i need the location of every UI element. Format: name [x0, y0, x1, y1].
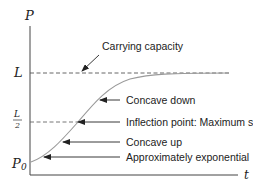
svg-text:0: 0: [21, 162, 27, 172]
svg-text:2: 2: [14, 121, 20, 130]
approx-exponential-text: Approximately exponential: [126, 151, 249, 163]
logistic-diagram: P t L L 2 P 0 Carrying capacity Concave …: [0, 0, 253, 187]
inflection-text: Inflection point: Maximum slope: [126, 116, 253, 128]
concave-down-text: Concave down: [126, 94, 196, 106]
L-label: L: [13, 65, 23, 80]
svg-text:L: L: [13, 109, 20, 119]
concave-up-text: Concave up: [126, 136, 182, 148]
y-axis-label: P: [24, 8, 34, 23]
P0-label: P 0: [11, 156, 27, 172]
carrying-capacity-text: Carrying capacity: [102, 40, 184, 52]
svg-text:P: P: [11, 156, 21, 171]
carrying-capacity-arrow: [82, 55, 99, 71]
x-axis-label: t: [244, 168, 249, 182]
half-L-label: L 2: [13, 109, 22, 130]
